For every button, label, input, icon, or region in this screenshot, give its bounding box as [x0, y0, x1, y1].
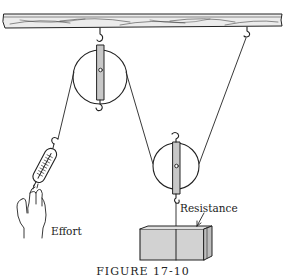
hook-icon — [175, 194, 180, 203]
pointer-arrow-icon — [197, 213, 204, 226]
hook-icon — [52, 138, 58, 145]
ceiling-beam — [3, 14, 282, 28]
hook-icon — [172, 133, 179, 143]
rope — [126, 72, 153, 164]
effort-label: Effort — [51, 225, 82, 237]
load-box — [140, 226, 212, 260]
resistance-label: Resistance — [180, 202, 238, 214]
rope — [58, 72, 74, 139]
figure-caption: FIGURE 17-10 — [0, 265, 286, 278]
hand-icon — [17, 184, 46, 238]
spring-scale — [28, 138, 58, 190]
fixed-pulley — [73, 45, 127, 111]
hook-icon — [244, 27, 250, 37]
movable-pulley — [153, 133, 199, 204]
hook-icon — [97, 28, 103, 42]
rope — [199, 38, 246, 164]
